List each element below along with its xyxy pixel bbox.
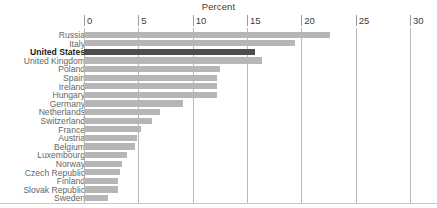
bar-germany xyxy=(84,100,183,106)
tick-mark-icon xyxy=(193,15,194,26)
x-axis-tick-label: 15 xyxy=(250,14,261,27)
bar-row: Sweden xyxy=(0,194,437,203)
bar-ireland xyxy=(84,83,217,89)
x-axis-tick-label: 0 xyxy=(87,14,92,27)
bar-belgium xyxy=(84,143,135,149)
category-label-sweden: Sweden xyxy=(54,194,85,203)
bar-spain xyxy=(84,75,217,81)
bar-italy xyxy=(84,40,295,46)
x-axis-tick-label: 20 xyxy=(304,14,315,27)
bar-czech-republic xyxy=(84,169,120,175)
chart-title: Percent xyxy=(0,1,437,13)
axis-baseline xyxy=(0,203,437,204)
plot-area: RussiaItalyUnited StatesUnited KingdomPo… xyxy=(0,28,437,206)
tick-mark-icon xyxy=(301,15,302,26)
tick-mark-icon xyxy=(356,15,357,26)
tick-mark-icon xyxy=(247,15,248,26)
x-axis-tick-labels: 051015202530 xyxy=(0,14,437,28)
bar-sweden xyxy=(84,195,108,201)
x-axis-tick-label: 25 xyxy=(359,14,370,27)
bar-slovak-republic xyxy=(84,186,118,192)
bar-luxembourg xyxy=(84,152,127,158)
bar-norway xyxy=(84,161,122,167)
bar-netherlands xyxy=(84,109,160,115)
bar-russia xyxy=(84,32,330,38)
bar-hungary xyxy=(84,92,217,98)
tick-mark-icon xyxy=(138,15,139,26)
bar-united-kingdom xyxy=(84,57,262,63)
bar-row: Russia xyxy=(0,31,437,40)
bar-france xyxy=(84,126,141,132)
tick-mark-icon xyxy=(84,15,85,26)
tick-mark-icon xyxy=(410,15,411,26)
x-axis-tick-label: 10 xyxy=(196,14,207,27)
bar-finland xyxy=(84,178,118,184)
x-axis-tick-label: 5 xyxy=(141,14,146,27)
horizontal-bar-chart: Percent 051015202530 RussiaItalyUnited S… xyxy=(0,0,437,208)
bar-austria xyxy=(84,135,137,141)
bar-switzerland xyxy=(84,118,152,124)
x-axis-tick-label: 30 xyxy=(413,14,424,27)
bar-poland xyxy=(84,66,220,72)
bar-united-states xyxy=(84,49,255,55)
